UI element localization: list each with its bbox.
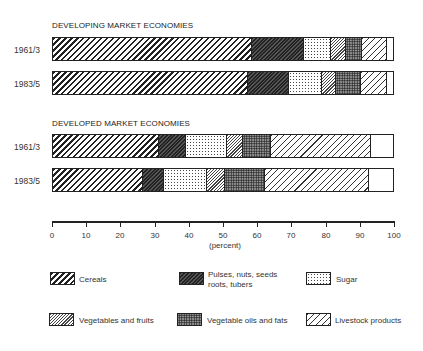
bar-segment-vegetables-and-fruits xyxy=(227,135,243,157)
bar-segment-sugar xyxy=(289,72,322,94)
row-label: 1961/3 xyxy=(0,142,40,152)
x-tick xyxy=(120,222,121,227)
bar-segment-cereals xyxy=(53,135,159,157)
bar-segment-vegetable-oils-and-fats xyxy=(243,135,271,157)
x-tick xyxy=(257,222,258,227)
legend-swatch-sugar xyxy=(306,272,331,285)
bar-segment-cereals xyxy=(53,38,252,60)
row-label: 1961/3 xyxy=(0,45,40,55)
bar-segment-sugar xyxy=(164,169,207,191)
legend-label-pulses-line2: roots, tubers xyxy=(208,280,277,290)
legend-label-cereals: Cereals xyxy=(79,275,107,285)
bar-segment-cereals xyxy=(53,169,143,191)
bar-developing-1961 xyxy=(52,37,394,61)
x-tick-label: 80 xyxy=(314,231,338,240)
x-tick-label: 50 xyxy=(211,231,235,240)
bar-developing-1983 xyxy=(52,71,394,95)
row-label: 1983/5 xyxy=(0,176,40,186)
bar-segment-livestock-products xyxy=(361,72,387,94)
legend-swatch-oils xyxy=(177,313,202,326)
bar-segment-other xyxy=(387,38,393,60)
bar-segment-vegetable-oils-and-fats xyxy=(336,72,361,94)
bar-segment-vegetables-and-fruits xyxy=(331,38,346,60)
x-tick-label: 60 xyxy=(245,231,269,240)
bar-segment-other xyxy=(371,135,393,157)
x-tick xyxy=(360,222,361,227)
x-tick xyxy=(155,222,156,227)
bar-segment-pulses-nuts-seeds-roots-tubers xyxy=(252,38,304,60)
bar-segment-sugar xyxy=(304,38,332,60)
x-tick xyxy=(86,222,87,227)
x-tick-label: 100 xyxy=(382,231,406,240)
legend-label-vegetables: Vegetables and fruits xyxy=(79,316,154,326)
x-tick xyxy=(291,222,292,227)
legend-swatch-cereals xyxy=(50,272,75,285)
bar-developed-1961 xyxy=(52,134,394,158)
x-axis-label: (percent) xyxy=(200,241,250,250)
bar-segment-livestock-products xyxy=(271,135,372,157)
group-title-developed: DEVELOPED MARKET ECONOMIES xyxy=(52,119,190,128)
x-tick-label: 0 xyxy=(40,231,64,240)
bar-developed-1983 xyxy=(52,168,394,192)
bar-segment-vegetable-oils-and-fats xyxy=(225,169,265,191)
bar-segment-vegetables-and-fruits xyxy=(322,72,337,94)
x-tick xyxy=(326,222,327,227)
x-tick-label: 10 xyxy=(74,231,98,240)
bar-segment-vegetables-and-fruits xyxy=(207,169,225,191)
legend-label-livestock: Livestock products xyxy=(335,316,401,326)
bar-segment-other xyxy=(387,72,393,94)
row-label: 1983/5 xyxy=(0,79,40,89)
legend-label-pulses: Pulses, nuts, seeds roots, tubers xyxy=(208,270,277,290)
bar-segment-pulses-nuts-seeds-roots-tubers xyxy=(143,169,164,191)
bar-segment-vegetable-oils-and-fats xyxy=(346,38,362,60)
bar-segment-sugar xyxy=(186,135,227,157)
x-tick-label: 70 xyxy=(279,231,303,240)
bar-segment-livestock-products xyxy=(265,169,369,191)
legend-swatch-pulses xyxy=(179,272,204,285)
legend-swatch-vegetables xyxy=(49,313,74,326)
legend-label-pulses-line1: Pulses, nuts, seeds xyxy=(208,270,277,280)
x-tick xyxy=(189,222,190,227)
x-tick xyxy=(223,222,224,227)
bar-segment-livestock-products xyxy=(362,38,387,60)
bar-segment-pulses-nuts-seeds-roots-tubers xyxy=(159,135,186,157)
legend-swatch-livestock xyxy=(306,313,331,326)
x-tick-label: 20 xyxy=(108,231,132,240)
legend-label-sugar: Sugar xyxy=(336,275,357,285)
x-tick xyxy=(394,222,395,227)
x-tick-label: 40 xyxy=(177,231,201,240)
legend-label-oils: Vegetable oils and fats xyxy=(207,316,288,326)
group-title-developing: DEVELOPING MARKET ECONOMIES xyxy=(52,21,193,30)
x-tick xyxy=(52,222,53,227)
bar-segment-cereals xyxy=(53,72,248,94)
x-tick-label: 30 xyxy=(143,231,167,240)
bar-segment-other xyxy=(369,169,393,191)
bar-segment-pulses-nuts-seeds-roots-tubers xyxy=(248,72,289,94)
x-tick-label: 90 xyxy=(348,231,372,240)
